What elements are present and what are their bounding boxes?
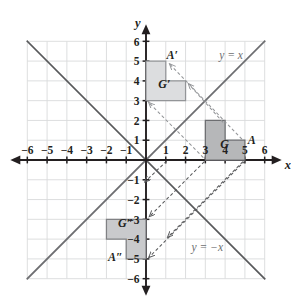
coordinate-plane-figure: −6−5−4−3−2−1123456654321−1−2−3−4−5−6xyGA… [0, 0, 291, 301]
x-axis-arrow-right [272, 156, 282, 165]
figure-g-double-prime-vertex-label: A″ [107, 250, 123, 264]
x-axis-tick-label: 6 [262, 144, 268, 156]
figure-g-prime-label: G′ [158, 77, 170, 91]
x-axis-tick-label: 3 [202, 144, 208, 156]
x-axis-tick-label: 2 [183, 144, 189, 156]
x-axis-arrow-left [10, 156, 20, 165]
line-y-equals-x-equation-label: y = x [218, 49, 244, 62]
y-axis-tick-label: 4 [134, 75, 140, 87]
coordinate-plane-svg: −6−5−4−3−2−1123456654321−1−2−3−4−5−6xyGA… [0, 0, 291, 301]
x-axis-letter: x [284, 158, 291, 172]
y-axis-tick-label: 1 [134, 134, 140, 146]
y-axis-tick-label: −4 [127, 233, 140, 245]
figure-g-vertex-label: A [247, 133, 256, 147]
y-axis-tick-label: −2 [127, 194, 140, 206]
x-axis-tick-label: −3 [81, 144, 94, 156]
y-axis-tick-label: 2 [134, 115, 140, 127]
x-axis-tick-label: −1 [120, 144, 133, 156]
y-axis-tick-label: 6 [134, 36, 140, 48]
figure-g-double-prime-label: G″ [118, 216, 133, 230]
x-axis-tick-label: −6 [21, 144, 34, 156]
y-axis-tick-label: −1 [127, 174, 140, 186]
y-axis-tick-label: −6 [127, 273, 140, 285]
y-axis-arrow-down [142, 286, 151, 296]
y-axis-letter: y [133, 16, 141, 30]
x-axis-tick-label: −5 [41, 144, 54, 156]
x-axis-tick-label: −4 [61, 144, 74, 156]
x-axis-tick-label: −2 [100, 144, 113, 156]
figure-g-prime-vertex-label: A′ [165, 48, 177, 62]
figure-g-label: G [220, 137, 229, 151]
line-y-equals-minus-x-equation-label: y = −x [191, 241, 224, 254]
y-axis-tick-label: −5 [127, 253, 140, 265]
y-axis-arrow-up [142, 24, 151, 34]
y-axis-tick-label: 5 [134, 55, 140, 67]
x-axis-tick-label: 1 [163, 144, 169, 156]
y-axis-tick-label: 3 [134, 95, 140, 107]
